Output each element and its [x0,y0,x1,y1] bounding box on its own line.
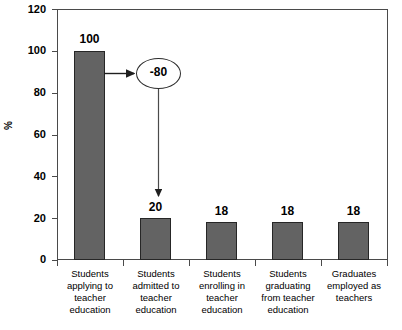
y-axis-tick-80 [52,93,58,94]
x-axis-tick-1 [123,260,124,266]
y-axis-label-40: 40 [2,171,46,182]
x-axis-label-graduates-employed: Graduates employed as teachers [321,268,387,304]
y-axis-label-0: 0 [2,254,46,265]
x-axis-tick-5 [387,260,388,266]
bar-chart: % 120 100 80 60 40 20 0 100 20 18 18 18 … [0,0,402,330]
callout-ellipse-label: -80 [136,66,181,78]
y-axis-label-100: 100 [2,45,46,56]
bar-value-students-graduating: 18 [257,205,318,217]
bar-students-graduating [272,222,303,260]
bar-value-students-enrolling: 18 [191,205,252,217]
bar-students-applying [74,51,105,260]
x-axis-label-students-admitted: Students admitted to teacher education [123,268,189,317]
y-axis-label-60: 60 [2,129,46,140]
bar-value-graduates-employed: 18 [323,205,384,217]
bar-students-admitted [140,218,171,260]
y-axis-label-120: 120 [2,4,46,15]
y-axis-label-80: 80 [2,87,46,98]
y-axis-tick-20 [52,218,58,219]
y-axis-tick-40 [52,176,58,177]
y-axis-tick-120 [52,9,58,10]
bar-students-enrolling [206,222,237,260]
x-axis-tick-4 [321,260,322,266]
x-axis-tick-0 [57,260,58,266]
x-axis-label-students-enrolling: Students enrolling in teacher education [189,268,255,317]
x-axis-tick-2 [189,260,190,266]
y-axis-label-20: 20 [2,213,46,224]
bar-value-students-admitted: 20 [125,201,186,213]
x-axis-tick-3 [255,260,256,266]
bar-graduates-employed [338,222,369,260]
bar-value-students-applying: 100 [59,33,120,45]
x-axis-label-students-applying: Students applying to teacher education [57,268,123,317]
y-axis-tick-100 [52,51,58,52]
x-axis-label-students-graduating: Students graduating from teacher educati… [255,268,321,317]
y-axis-tick-60 [52,135,58,136]
